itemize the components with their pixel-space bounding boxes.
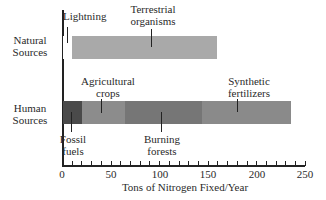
tick (81, 161, 82, 166)
tick (120, 161, 121, 166)
tick (140, 161, 141, 166)
annotation-line: Terrestrial (122, 3, 184, 15)
tick (188, 161, 189, 166)
leader-line (237, 99, 238, 112)
segment-synthetic-fertilizers (202, 101, 291, 124)
leader-line (151, 29, 152, 47)
category-label-line: Natural (2, 34, 58, 46)
annotation-line: fertilizers (218, 87, 280, 99)
leader-line (71, 112, 72, 132)
leader-line (161, 112, 162, 132)
tick (91, 161, 92, 166)
leader-line (101, 99, 102, 113)
category-label-human: Human Sources (2, 102, 58, 126)
tick (305, 161, 306, 166)
tick (237, 161, 238, 166)
annotation-synthetic-fertilizers: Synthetic fertilizers (218, 75, 280, 99)
annotation-burning-forests: Burning forests (141, 133, 183, 157)
annotation-line: forests (141, 145, 183, 157)
tick (285, 161, 286, 166)
x-axis-title: Tons of Nitrogen Fixed/Year (110, 181, 260, 193)
tick (149, 161, 150, 166)
annotation-line: Burning (141, 133, 183, 145)
annotation-line: fuels (58, 145, 88, 157)
tick-label: 250 (290, 168, 320, 180)
tick (62, 161, 63, 166)
tick (101, 161, 102, 166)
tick (111, 161, 112, 166)
leader-line (67, 27, 68, 43)
annotation-line: Synthetic (218, 75, 280, 87)
tick (198, 161, 199, 166)
tick-label: 0 (47, 168, 77, 180)
tick-label: 200 (242, 168, 272, 180)
tick (169, 161, 170, 166)
x-axis (62, 165, 305, 167)
bar-natural-sources (63, 36, 217, 59)
category-label-line: Sources (2, 46, 58, 58)
annotation-agricultural-crops: Agricultural crops (75, 75, 141, 99)
tick (256, 161, 257, 166)
tick (159, 161, 160, 166)
tick-label: 150 (193, 168, 223, 180)
tick (266, 161, 267, 166)
bar-human-sources (63, 101, 291, 124)
segment-terrestrial-organisms (72, 36, 217, 59)
category-label-line: Sources (2, 114, 58, 126)
tick (179, 161, 180, 166)
tick (247, 161, 248, 166)
tick (276, 161, 277, 166)
tick-label: 50 (96, 168, 126, 180)
tick (217, 161, 218, 166)
segment-agricultural-crops (82, 101, 125, 124)
annotation-line: Fossil (58, 133, 88, 145)
annotation-line: Agricultural (75, 75, 141, 87)
tick (208, 161, 209, 166)
annotation-line: crops (75, 87, 141, 99)
annotation-line: organisms (122, 15, 184, 27)
annotation-lightning: Lightning (63, 10, 106, 22)
tick (130, 161, 131, 166)
annotation-terrestrial-organisms: Terrestrial organisms (122, 3, 184, 27)
category-label-natural: Natural Sources (2, 34, 58, 58)
segment-fossil-fuels (63, 101, 82, 124)
tick-label: 100 (145, 168, 175, 180)
tick (227, 161, 228, 166)
tick (72, 161, 73, 166)
tick (295, 161, 296, 166)
segment-burning-forests (125, 101, 202, 124)
category-label-line: Human (2, 102, 58, 114)
annotation-fossil-fuels: Fossil fuels (58, 133, 88, 157)
